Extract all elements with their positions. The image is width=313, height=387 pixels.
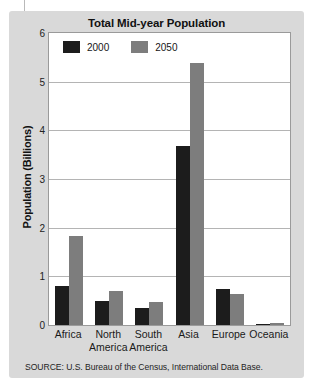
y-tick-label: 4 bbox=[39, 125, 45, 136]
bar-oceania-2050 bbox=[270, 323, 284, 325]
bar-group bbox=[55, 33, 83, 325]
chart-title: Total Mid-year Population bbox=[9, 17, 304, 29]
legend-item-2000: 2000 bbox=[63, 41, 109, 53]
bar-asia-2000 bbox=[176, 146, 190, 325]
y-axis-title: Population (Billions) bbox=[21, 102, 33, 252]
bar-south-america-2000 bbox=[135, 308, 149, 325]
y-tick-label: 3 bbox=[39, 174, 45, 185]
bar-africa-2000 bbox=[55, 286, 69, 325]
y-tick-label: 1 bbox=[39, 271, 45, 282]
y-tick-label: 5 bbox=[39, 76, 45, 87]
x-axis-labels: AfricaNorthAmericaSouthAmericaAsiaEurope… bbox=[48, 328, 291, 362]
bar-asia-2050 bbox=[190, 63, 204, 325]
bar-north-america-2000 bbox=[95, 301, 109, 325]
bar-group bbox=[135, 33, 163, 325]
bar-europe-2000 bbox=[216, 289, 230, 325]
legend-item-2050: 2050 bbox=[131, 41, 177, 53]
y-tick-label: 2 bbox=[39, 222, 45, 233]
legend-label-2050: 2050 bbox=[155, 42, 177, 53]
legend-label-2000: 2000 bbox=[87, 42, 109, 53]
bar-group bbox=[176, 33, 204, 325]
x-label-line: Oceania bbox=[234, 328, 304, 341]
plot-area: 0123456 2000 2050 bbox=[48, 32, 291, 326]
chart-figure-panel: Total Mid-year Population Population (Bi… bbox=[9, 11, 304, 378]
bar-group bbox=[256, 33, 284, 325]
bar-europe-2050 bbox=[230, 294, 244, 325]
bar-oceania-2000 bbox=[256, 324, 270, 325]
scan-artifact-line bbox=[24, 0, 25, 11]
legend-swatch-2050 bbox=[131, 41, 148, 53]
bar-africa-2050 bbox=[69, 236, 83, 325]
x-label-line: America bbox=[113, 341, 183, 354]
bar-group bbox=[95, 33, 123, 325]
source-note: SOURCE: U.S. Bureau of the Census, Inter… bbox=[25, 362, 263, 372]
bar-group bbox=[216, 33, 244, 325]
legend-swatch-2000 bbox=[63, 41, 80, 53]
bars-layer bbox=[49, 33, 290, 325]
y-tick-label: 6 bbox=[39, 28, 45, 39]
x-label-oceania: Oceania bbox=[234, 328, 304, 341]
bar-north-america-2050 bbox=[109, 291, 123, 325]
bar-south-america-2050 bbox=[149, 302, 163, 325]
chart-legend: 2000 2050 bbox=[63, 41, 178, 53]
